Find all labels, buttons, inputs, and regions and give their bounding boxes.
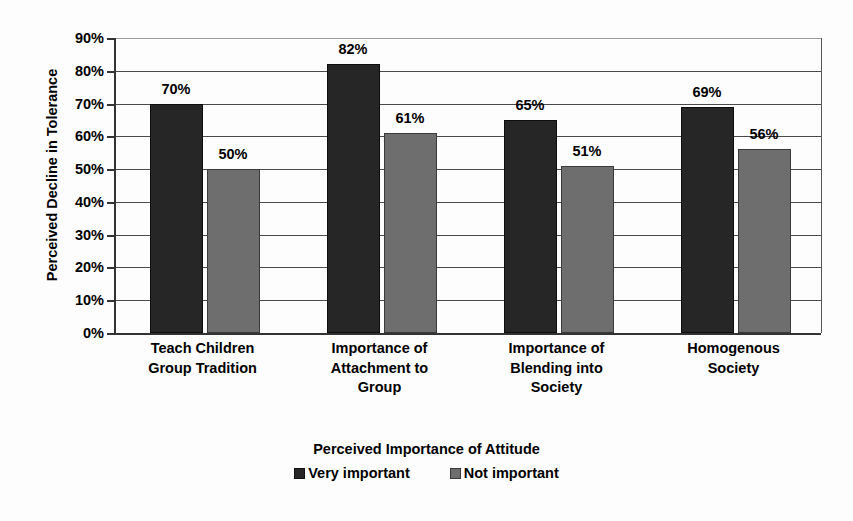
legend-swatch-not-important xyxy=(450,468,461,479)
bar-chart: Perceived Decline in Tolerance 0%10%20%3… xyxy=(0,0,853,521)
bar-value-label: 50% xyxy=(218,146,247,162)
x-axis-category-label: Importance of Blending into Society xyxy=(509,339,605,398)
x-axis-title: Perceived Importance of Attitude xyxy=(0,441,853,457)
y-axis-tick-label: 0% xyxy=(83,326,104,341)
y-axis-tick-label: 10% xyxy=(75,293,104,308)
y-axis-tick-label: 40% xyxy=(75,195,104,210)
bar-value-label: 69% xyxy=(692,84,721,100)
x-axis-category-label: Teach Children Group Tradition xyxy=(148,339,257,378)
bar-very-important xyxy=(504,120,557,333)
bar-very-important xyxy=(327,64,380,333)
bar-value-label: 82% xyxy=(338,41,367,57)
bar-very-important xyxy=(150,104,203,333)
bar-value-label: 51% xyxy=(572,143,601,159)
x-axis-category-labels: Teach Children Group TraditionImportance… xyxy=(114,339,822,419)
bar-very-important xyxy=(681,107,734,333)
bar-not-important xyxy=(561,166,614,333)
gridline xyxy=(116,104,821,105)
y-axis-tick-label: 30% xyxy=(75,227,104,242)
bar-not-important xyxy=(384,133,437,333)
plot-area: 70%50%82%61%65%51%69%56% xyxy=(114,38,822,333)
bar-value-label: 61% xyxy=(395,110,424,126)
x-axis-category-label: Importance of Attachment to Group xyxy=(331,339,428,398)
y-axis-tick xyxy=(107,136,116,138)
gridline xyxy=(116,38,821,39)
y-axis-tick xyxy=(107,38,116,40)
y-axis-tick xyxy=(107,169,116,171)
legend-label-very-important: Very important xyxy=(308,465,410,481)
y-axis-tick xyxy=(107,267,116,269)
y-axis-tick xyxy=(107,333,116,335)
x-axis-category-label: Homogenous Society xyxy=(687,339,780,378)
chart-legend: Very important Not important xyxy=(0,465,853,481)
bar-value-label: 70% xyxy=(161,81,190,97)
y-axis-tick xyxy=(107,235,116,237)
y-axis-tick-label: 80% xyxy=(75,64,104,79)
y-axis-tick xyxy=(107,202,116,204)
legend-label-not-important: Not important xyxy=(464,465,559,481)
bar-value-label: 65% xyxy=(515,97,544,113)
y-axis-tick-label: 50% xyxy=(75,162,104,177)
legend-item-not-important: Not important xyxy=(450,465,559,481)
legend-swatch-very-important xyxy=(294,468,305,479)
y-axis-tick-label: 70% xyxy=(75,96,104,111)
y-axis-tick-label: 90% xyxy=(75,31,104,46)
gridline xyxy=(116,333,821,335)
y-axis-tick-label: 60% xyxy=(75,129,104,144)
bar-value-label: 56% xyxy=(749,126,778,142)
y-axis-tick-labels: 0%10%20%30%40%50%60%70%80%90% xyxy=(44,38,104,333)
y-axis-tick-label: 20% xyxy=(75,260,104,275)
bar-not-important xyxy=(207,169,260,333)
y-axis-tick xyxy=(107,104,116,106)
legend-item-very-important: Very important xyxy=(294,465,410,481)
y-axis-tick xyxy=(107,300,116,302)
bar-not-important xyxy=(738,149,791,333)
y-axis-tick xyxy=(107,71,116,73)
gridline xyxy=(116,71,821,72)
